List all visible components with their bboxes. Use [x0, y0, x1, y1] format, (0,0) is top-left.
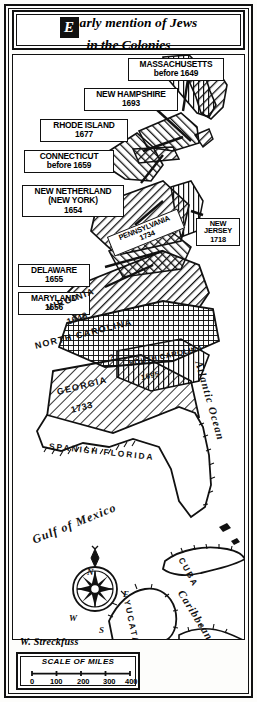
title-drop-cap: E [60, 17, 79, 38]
compass-south-label: S [99, 625, 105, 635]
scale-tick-2: 200 [77, 677, 90, 686]
label-massachusetts: MASSACHUSETTS before 1649 [128, 58, 224, 81]
scale-tick-3: 300 [103, 677, 116, 686]
title-line-2: in the Colonies [14, 37, 243, 53]
label-new-hampshire: NEW HAMPSHIRE 1693 [84, 88, 178, 111]
scale-bar-title: SCALE OF MILES [18, 657, 138, 666]
scale-tick-1: 100 [50, 677, 63, 686]
label-new-hampshire-year: 1693 [87, 99, 175, 107]
artist-signature: W. Streckfuss [20, 636, 79, 647]
label-new-hampshire-name: NEW HAMPSHIRE [87, 90, 175, 98]
scale-bar-ticks: 0 100 200 300 400 [24, 677, 134, 688]
scale-tick-4: 400 [125, 677, 138, 686]
scale-bar-ruler [31, 671, 131, 676]
label-new-netherland-alt: (NEW YORK) [25, 196, 121, 204]
label-delaware-year: 1655 [21, 275, 87, 283]
title-cartouche: Early mention of Jews in the Colonies [12, 10, 245, 50]
label-massachusetts-name: MASSACHUSETTS [131, 60, 221, 68]
label-rhode-island-name: RHODE ISLAND [43, 121, 125, 129]
compass-north-label: N [87, 567, 95, 577]
label-connecticut: CONNECTICUT before 1659 [24, 150, 114, 173]
scale-tick-0: 0 [30, 677, 34, 686]
label-new-jersey-name-2: JERSEY [199, 227, 237, 234]
label-delaware-name: DELAWARE [21, 266, 87, 274]
title-line-1: arly mention of Jews [80, 15, 198, 30]
compass-east-label: E [123, 589, 130, 599]
map-canvas: VIRGINIA 1648 NORTH CAROLINA ? SOUTH CAR… [12, 54, 245, 640]
label-new-jersey: NEW JERSEY 1718 [196, 218, 240, 246]
label-massachusetts-year: before 1649 [131, 69, 221, 77]
map-illustration: Early mention of Jews in the Colonies [0, 0, 257, 702]
label-new-netherland-name: NEW NETHERLAND [25, 187, 121, 195]
label-rhode-island-year: 1677 [43, 130, 125, 138]
label-rhode-island: RHODE ISLAND 1677 [40, 119, 128, 142]
label-connecticut-name: CONNECTICUT [27, 152, 111, 160]
compass-west-label: W [69, 613, 78, 623]
label-delaware: DELAWARE 1655 [18, 264, 90, 287]
scale-bar-cartouche: SCALE OF MILES 0 100 200 300 400 [16, 652, 140, 690]
label-new-netherland-year: 1654 [25, 206, 121, 214]
label-new-netherland: NEW NETHERLAND (NEW YORK) 1654 [22, 185, 124, 217]
label-connecticut-year: before 1659 [27, 161, 111, 169]
label-new-jersey-year: 1718 [199, 236, 237, 243]
